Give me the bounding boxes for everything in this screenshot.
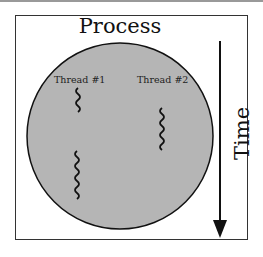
diagram-canvas [0, 0, 263, 257]
process-circle [27, 43, 213, 229]
thread-1-label: Thread #1 [54, 74, 105, 85]
time-arrow-head-icon [213, 220, 227, 238]
process-title: Process [0, 14, 240, 38]
thread-2-label: Thread #2 [137, 74, 188, 85]
time-axis-label: Time [228, 120, 256, 160]
